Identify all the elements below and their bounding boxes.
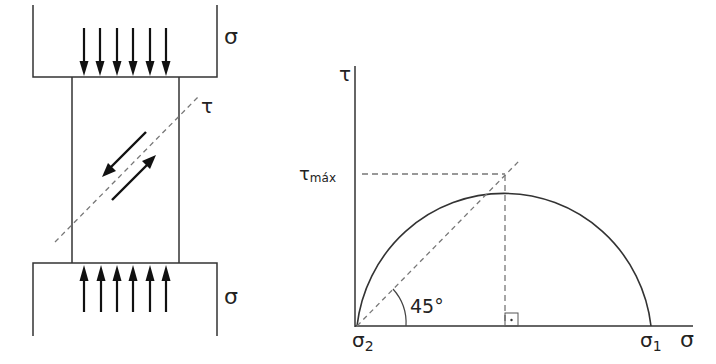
stress-diagram: σ τ xyxy=(0,0,716,364)
angle-label: 45° xyxy=(410,295,444,317)
top-arrowheads xyxy=(80,61,171,76)
mohr-circle-figure: τ σ 45° τmáx σ2 σ1 xyxy=(299,62,694,354)
mohr-semicircle xyxy=(357,193,651,326)
bottom-arrowheads xyxy=(80,265,171,281)
shear-plane-dashed xyxy=(55,97,198,242)
right-angle-dot xyxy=(510,319,512,321)
sigma-bottom-label: σ xyxy=(224,284,238,309)
specimen-figure: σ τ xyxy=(33,5,238,336)
sigma1-label: σ1 xyxy=(640,328,662,354)
tau-plane-label: τ xyxy=(201,94,213,118)
angle-arc xyxy=(393,289,406,326)
bottom-plate xyxy=(33,263,217,336)
bottom-compression-arrows xyxy=(84,276,166,312)
sigma-top-label: σ xyxy=(224,24,238,49)
top-compression-arrows xyxy=(84,28,166,66)
shear-arrow-down-left xyxy=(102,132,146,177)
top-plate xyxy=(33,5,217,77)
tau-max-label: τmáx xyxy=(299,163,336,185)
sigma-axis-label: σ xyxy=(680,327,694,352)
tau-axis-label: τ xyxy=(339,62,351,86)
sigma2-label: σ2 xyxy=(352,328,374,354)
